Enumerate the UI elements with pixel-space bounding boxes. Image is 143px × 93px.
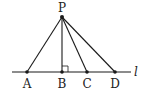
- label-P: P: [58, 1, 66, 15]
- segment-PC: [62, 17, 87, 72]
- point-C: [85, 70, 89, 74]
- point-D: [113, 70, 117, 74]
- label-D: D: [110, 77, 120, 91]
- label-C: C: [82, 77, 91, 91]
- geometry-diagram: l P A B C D: [0, 0, 143, 93]
- label-B: B: [58, 77, 67, 91]
- label-A: A: [22, 77, 32, 91]
- point-B: [60, 70, 64, 74]
- point-P: [60, 15, 64, 19]
- point-A: [25, 70, 29, 74]
- line-label: l: [134, 65, 138, 79]
- segment-PA: [27, 17, 62, 72]
- segment-PD: [62, 17, 115, 72]
